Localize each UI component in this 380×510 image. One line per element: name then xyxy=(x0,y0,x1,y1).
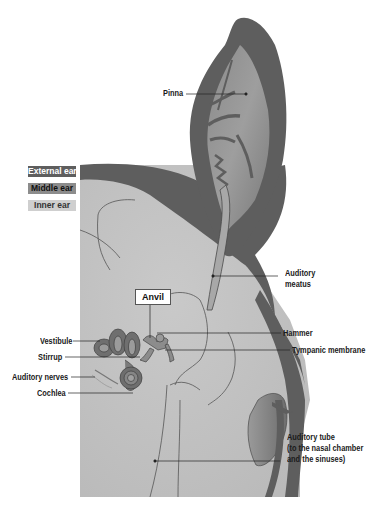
label-auditory-tube: Auditory tube (to the nasal chamber and … xyxy=(287,432,363,465)
label-auditory-tube-line3: and the sinuses) xyxy=(287,454,363,465)
label-auditory-tube-line2: (to the nasal chamber xyxy=(287,443,363,454)
label-pinna: Pinna xyxy=(163,88,183,99)
label-cochlea: Cochlea xyxy=(37,388,66,399)
label-auditory-tube-line1: Auditory tube xyxy=(287,432,363,443)
label-hammer: Hammer xyxy=(283,328,313,339)
label-auditory-meatus-line1: Auditory xyxy=(285,268,315,279)
label-auditory-meatus: Auditory meatus xyxy=(285,268,315,290)
label-tympanic-membrane: Tympanic membrane xyxy=(292,345,365,356)
label-vestibule: Vestibule xyxy=(40,336,72,347)
legend-external-ear: External ear xyxy=(28,166,76,177)
legend-inner-ear: Inner ear xyxy=(28,200,76,211)
label-stirrup: Stirrup xyxy=(38,352,62,363)
legend-middle-ear: Middle ear xyxy=(28,183,76,194)
label-auditory-nerves: Auditory nerves xyxy=(12,372,68,383)
label-anvil: Anvil xyxy=(135,289,171,305)
label-auditory-meatus-line2: meatus xyxy=(285,279,315,290)
